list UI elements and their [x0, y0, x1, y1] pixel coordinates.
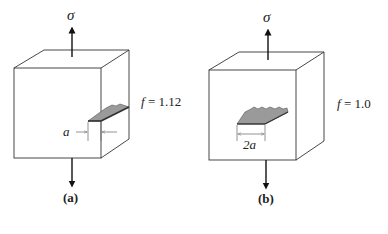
edge-crack-a	[88, 104, 129, 121]
caption-a: (a)	[63, 190, 78, 206]
dimension-label-a: a	[63, 124, 70, 140]
dimension-a	[76, 122, 117, 141]
factor-symbol-b: f	[337, 96, 341, 111]
panel-a-block	[14, 50, 129, 158]
factor-value-a: = 1.12	[148, 94, 181, 109]
factor-symbol-a: f	[141, 94, 145, 109]
block-a-front-face	[14, 68, 101, 158]
block-b-top-face	[209, 52, 324, 70]
dimension-label-2a: 2a	[243, 137, 256, 153]
stress-label-a: σ	[67, 7, 74, 24]
block-b-side-face	[296, 52, 324, 160]
factor-value-b: = 1.0	[344, 96, 371, 111]
caption-b: (b)	[258, 191, 274, 207]
geometry-factor-a: f = 1.12	[141, 94, 181, 110]
center-crack-b	[237, 107, 288, 124]
panel-b-block	[209, 52, 324, 160]
geometry-factor-b: f = 1.0	[337, 96, 371, 112]
stress-label-b: σ	[263, 9, 270, 26]
diagram-canvas	[0, 0, 388, 234]
block-a-side-face	[101, 50, 129, 158]
